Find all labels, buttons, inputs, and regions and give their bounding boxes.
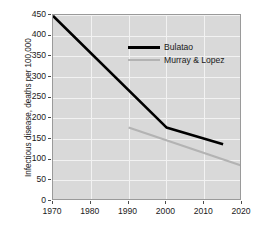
x-axis-tick-label: 2010	[183, 207, 223, 216]
x-axis-tick-label: 1990	[108, 207, 148, 216]
plot-area	[52, 14, 241, 200]
y-axis-tick-mark	[48, 97, 51, 98]
y-axis-tick-mark	[48, 179, 51, 180]
x-axis-tick-mark	[203, 201, 204, 204]
y-axis-tick-label: 150	[12, 134, 46, 143]
y-axis-tick-mark	[48, 138, 51, 139]
x-axis-tick-mark	[90, 201, 91, 204]
y-axis-tick-label: 50	[12, 175, 46, 184]
legend-label-murray-lopez: Murray & Lopez	[164, 54, 225, 66]
y-axis-tick-mark	[48, 76, 51, 77]
y-axis-tick-label: 250	[12, 92, 46, 101]
y-axis-tick-mark	[48, 35, 51, 36]
y-axis-tick-mark	[48, 55, 51, 56]
legend-swatch-bulatao	[128, 46, 160, 49]
series-line-bulatao	[53, 16, 223, 145]
y-axis-tick-label: 200	[12, 113, 46, 122]
legend-label-bulatao: Bulatao	[164, 41, 193, 53]
x-axis-tick-label: 2000	[145, 207, 185, 216]
y-axis-tick-label: 400	[12, 30, 46, 39]
y-axis-tick-mark	[48, 14, 51, 15]
x-axis-tick-label: 1980	[70, 207, 110, 216]
y-axis-tick-label: 300	[12, 72, 46, 81]
x-axis-tick-label: 1970	[32, 207, 72, 216]
x-axis-tick-mark	[52, 201, 53, 204]
x-axis-tick-label: 2020	[221, 207, 261, 216]
y-axis-tick-mark	[48, 200, 51, 201]
y-axis-tick-label: 350	[12, 51, 46, 60]
y-axis-tick-label: 450	[12, 10, 46, 19]
y-axis-tick-mark	[48, 159, 51, 160]
y-axis-tick-label: 0	[12, 196, 46, 205]
x-axis-tick-mark	[165, 201, 166, 204]
y-axis-tick-mark	[48, 117, 51, 118]
y-axis-tick-label: 100	[12, 154, 46, 163]
data-series-lines	[53, 15, 241, 200]
x-axis-tick-mark	[128, 201, 129, 204]
chart-figure: Infectious disease, deaths per 100,000 0…	[0, 0, 266, 236]
legend-swatch-murray-lopez	[128, 59, 160, 61]
x-axis-tick-mark	[241, 201, 242, 204]
